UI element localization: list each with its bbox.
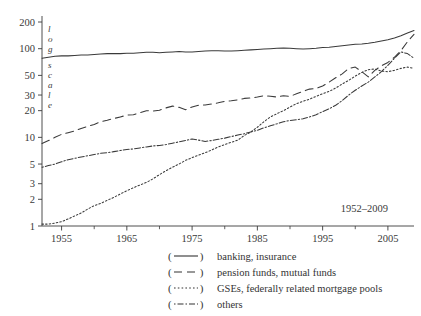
legend-label-gses: GSEs, federally related mortgage pools [214,283,382,294]
y-tick-label: 10 [25,132,36,143]
y-tick-label: 5 [30,159,35,170]
legend-label-banking: banking, insurance [214,251,296,262]
legend-item[interactable]: ( ) GSEs, federally related mortgage poo… [168,280,418,296]
series-line-solid [42,31,414,59]
y-tick-label: 20 [25,105,36,116]
legend-paren-close: ) [200,251,204,262]
legend-item[interactable]: ( ) pension funds, mutual funds [168,264,418,280]
legend-paren-open: ( [168,251,172,262]
period-annotation: 1952–2009 [341,203,388,214]
legend-paren-close: ) [200,299,204,310]
y-tick-label: 50 [25,70,36,81]
legend-key-dashed: ( ) [168,267,214,278]
axis-note-letter: l [48,90,51,100]
legend-paren-open: ( [168,283,172,294]
legend-line-dashed [173,268,199,276]
x-tick-label: 2005 [377,233,398,244]
legend-line-dashdot [173,300,199,308]
y-tick-label: 1 [30,221,35,232]
legend-paren-open: ( [168,299,172,310]
legend-paren-open: ( [168,267,172,278]
legend-line-dotted [173,284,199,292]
y-tick-label: 2 [30,194,35,205]
y-tick-label: 200 [19,17,35,28]
legend-label-pension: pension funds, mutual funds [214,267,336,278]
y-tick-label: 30 [25,90,36,101]
chart-legend: ( ) banking, insurance ( ) pension funds… [168,248,418,312]
axis-note-letter: a [48,80,53,90]
legend-key-solid: ( ) [168,251,214,262]
series-line-dotted [42,67,414,224]
legend-paren-close: ) [200,283,204,294]
axis-note-letter: o [48,34,53,44]
legend-item[interactable]: ( ) banking, insurance [168,248,418,264]
x-tick-label: 1975 [182,233,203,244]
legend-paren-close: ) [200,267,204,278]
axis-note-letter: c [48,70,52,80]
chart-figure: 1235102030501002001955196519751985199520… [0,0,421,316]
axis-note-letter: l [48,24,51,34]
axis-note-letter: s [48,60,52,70]
y-tick-label: 100 [19,43,35,54]
legend-item[interactable]: ( ) others [168,296,418,312]
y-tick-label: 3 [30,178,35,189]
axis-note-letter: e [48,100,52,110]
x-tick-label: 1965 [116,233,137,244]
legend-label-others: others [214,299,243,310]
legend-line-solid [173,252,199,260]
legend-key-dashdot: ( ) [168,299,214,310]
x-tick-label: 1985 [247,233,268,244]
axis-note-letter: g [48,44,53,54]
legend-key-dotted: ( ) [168,283,214,294]
x-tick-label: 1955 [51,233,72,244]
x-tick-label: 1995 [312,233,333,244]
